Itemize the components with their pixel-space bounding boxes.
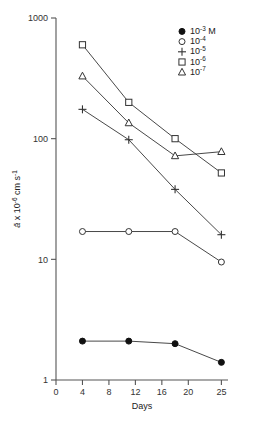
data-point-open-triangle xyxy=(79,72,86,79)
legend-item-4: 10-7 xyxy=(178,65,206,76)
x-tick-label: 8 xyxy=(106,387,111,397)
data-point-open-square xyxy=(126,99,132,105)
axis-titles: Daysā x 10-6 cm s-1 xyxy=(11,170,153,411)
x-tick-label: 25 xyxy=(216,387,226,397)
y-tick-label: 10 xyxy=(38,255,48,265)
data-point-filled-circle xyxy=(218,359,224,365)
x-axis-title: Days xyxy=(132,401,153,411)
data-point-open-square xyxy=(218,170,224,176)
data-point-filled-circle xyxy=(126,338,132,344)
figure: 110100100004812162025 10-3 M10-410-510-6… xyxy=(0,0,262,423)
data-point-open-circle xyxy=(218,259,224,265)
data-point-filled-circle xyxy=(172,341,178,347)
x-tick-label: 20 xyxy=(183,387,193,397)
series-4 xyxy=(79,72,225,158)
series-1 xyxy=(79,229,224,265)
data-point-plus xyxy=(178,48,186,56)
axes xyxy=(51,18,228,385)
data-point-open-circle xyxy=(179,39,185,45)
y-axis-title: ā x 10-6 cm s-1 xyxy=(11,170,22,228)
data-point-filled-circle xyxy=(79,338,85,344)
data-point-open-square xyxy=(79,42,85,48)
chart-canvas: 110100100004812162025 10-3 M10-410-510-6… xyxy=(0,0,262,423)
data-point-open-circle xyxy=(172,229,178,235)
series-line xyxy=(82,76,221,156)
x-tick-label: 0 xyxy=(53,387,58,397)
legend: 10-3 M10-410-510-610-7 xyxy=(178,25,216,77)
data-point-open-triangle xyxy=(178,68,185,75)
y-tick-label: 1 xyxy=(43,375,48,385)
data-point-open-circle xyxy=(126,229,132,235)
series-line xyxy=(82,232,221,262)
series-layer xyxy=(78,42,225,366)
y-tick-label: 100 xyxy=(33,134,48,144)
data-point-open-circle xyxy=(79,229,85,235)
data-point-plus xyxy=(78,105,86,113)
data-point-open-triangle xyxy=(218,148,225,155)
x-tick-label: 4 xyxy=(80,387,85,397)
series-2 xyxy=(78,105,225,238)
data-point-open-square xyxy=(172,136,178,142)
series-line xyxy=(82,109,221,234)
legend-label: 10-7 xyxy=(190,65,206,76)
x-tick-label: 16 xyxy=(157,387,167,397)
y-tick-label: 1000 xyxy=(28,13,48,23)
data-point-filled-circle xyxy=(179,28,185,34)
data-point-open-square xyxy=(179,59,185,65)
legend-item-0: 10-3 M xyxy=(179,25,216,36)
series-line xyxy=(82,341,221,362)
x-tick-label: 12 xyxy=(130,387,140,397)
series-0 xyxy=(79,338,224,365)
